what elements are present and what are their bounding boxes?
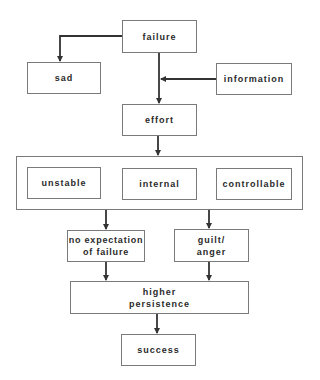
node-no-expectation: no expectation of failure bbox=[67, 230, 145, 262]
node-internal: internal bbox=[122, 168, 197, 200]
node-information-label: information bbox=[224, 73, 285, 85]
node-unstable-label: unstable bbox=[41, 177, 86, 189]
attribution-flow-diagram: failure sad information effort unstable … bbox=[0, 0, 320, 380]
node-effort: effort bbox=[122, 104, 197, 136]
edge-failure-sad bbox=[60, 36, 122, 61]
node-higher-persistence-label: higher persistence bbox=[129, 286, 190, 310]
node-internal-label: internal bbox=[139, 178, 180, 190]
node-information: information bbox=[216, 63, 292, 95]
node-sad: sad bbox=[27, 62, 101, 94]
node-controllable: controllable bbox=[216, 168, 292, 200]
node-no-expectation-label: no expectation of failure bbox=[69, 234, 144, 258]
node-unstable: unstable bbox=[27, 167, 101, 199]
node-success-label: success bbox=[137, 344, 180, 356]
node-failure-label: failure bbox=[142, 31, 176, 43]
node-controllable-label: controllable bbox=[222, 178, 285, 190]
node-higher-persistence: higher persistence bbox=[70, 281, 249, 314]
node-success: success bbox=[121, 334, 196, 366]
node-sad-label: sad bbox=[55, 72, 74, 84]
node-effort-label: effort bbox=[145, 114, 174, 126]
node-guilt-anger-label: guilt/ anger bbox=[197, 234, 227, 258]
node-guilt-anger: guilt/ anger bbox=[174, 229, 249, 262]
node-failure: failure bbox=[122, 20, 197, 53]
